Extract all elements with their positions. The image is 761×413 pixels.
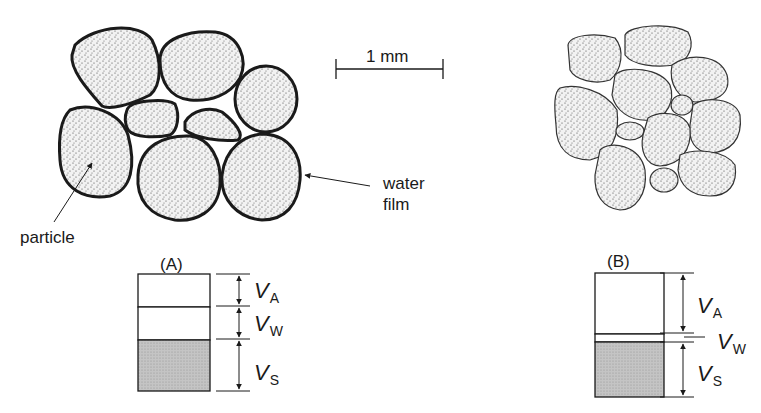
panel-b-va-label: VA	[697, 295, 722, 320]
panel-a-particles	[59, 28, 300, 220]
column-b	[595, 273, 705, 397]
panel-b-title: (B)	[607, 253, 630, 270]
panel-a-va-label: VA	[254, 280, 279, 305]
scale-bar-label: 1 mm	[366, 48, 409, 65]
panel-a-title: (A)	[160, 256, 183, 273]
water-film-label-1: water	[383, 175, 425, 192]
panel-a-vw-label: VW	[254, 313, 283, 338]
water-film-label-2: film	[383, 196, 409, 213]
panel-a-vs-label: VS	[254, 362, 279, 387]
water-film-arrow	[305, 175, 370, 186]
panel-b-vs-label: VS	[697, 363, 722, 388]
particle-label: particle	[20, 229, 75, 246]
panel-b-particles	[555, 26, 741, 210]
panel-b-vw-label: VW	[717, 331, 746, 356]
column-a	[138, 274, 250, 391]
